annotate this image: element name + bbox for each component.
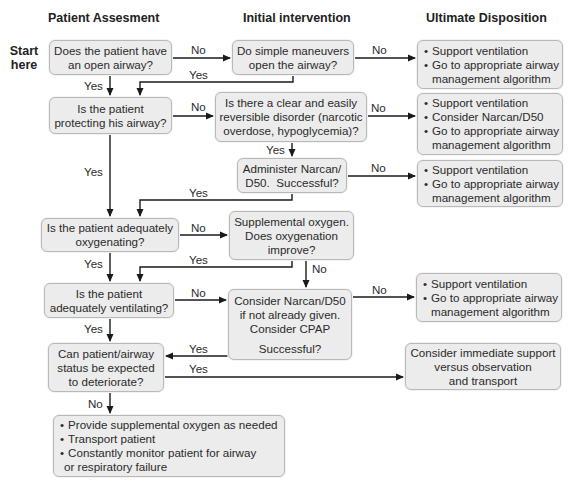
bullet-continuation: management algorithm <box>424 191 562 205</box>
bullet-item: Support ventilation <box>424 163 562 177</box>
bullet-item: Go to appropriate airway <box>423 291 561 305</box>
node-text: adequately ventilating? <box>50 301 169 315</box>
node-text: to deteriorate? <box>69 375 144 389</box>
edge-label-yes: Yes <box>84 257 103 270</box>
node-text: protecting his airway? <box>54 116 166 130</box>
bullet-item: Provide supplemental oxygen as needed <box>60 418 284 432</box>
node-text: Consider immediate support <box>411 346 556 360</box>
bullet-item: Support ventilation <box>424 44 562 58</box>
edge-label-no: No <box>191 221 206 234</box>
node-text: open the airway? <box>249 58 337 72</box>
node-text: versus observation <box>434 360 531 374</box>
edge-label-no: No <box>191 43 206 56</box>
node-supplemental-oxygen: Supplemental oxygen. Does oxygenation im… <box>229 211 354 260</box>
node-disposition-3: Support ventilation Go to appropriate ai… <box>417 160 563 207</box>
node-text: Administer Narcan/ <box>243 162 342 176</box>
bullet-continuation: management algorithm <box>424 138 562 152</box>
node-text: Is the patient <box>76 287 142 301</box>
node-text: Is the patient adequately <box>47 221 173 235</box>
edge-label-no: No <box>372 43 387 56</box>
node-text: Successful? <box>259 342 322 356</box>
node-text: Supplemental oxygen. <box>234 215 349 229</box>
node-protecting-airway: Is the patient protecting his airway? <box>49 97 172 134</box>
node-reversible-disorder: Is there a clear and easily reversible d… <box>215 92 367 142</box>
node-text: Is there a clear and easily <box>225 96 357 110</box>
bullet-item: Consider Narcan/D50 <box>424 110 562 124</box>
node-observation-transport: Consider immediate support versus observ… <box>405 343 561 390</box>
edge-label-no: No <box>371 101 386 114</box>
edge-label-yes: Yes <box>84 165 103 178</box>
edge-label-yes: Yes <box>189 186 208 199</box>
node-text: Does the patient have <box>54 44 167 58</box>
edge-label-no: No <box>371 161 386 174</box>
node-open-airway: Does the patient have an open airway? <box>49 40 172 75</box>
edge-label-no: No <box>191 100 206 113</box>
node-disposition-2: Support ventilation Consider Narcan/D50 … <box>417 93 563 155</box>
node-text: Consider Narcan/D50 <box>234 294 345 308</box>
bullet-item: Go to appropriate airway <box>424 58 562 72</box>
node-simple-maneuvers: Do simple maneuvers open the airway? <box>232 40 354 75</box>
bullet-continuation: or respiratory failure <box>60 460 284 474</box>
node-disposition-1: Support ventilation Go to appropriate ai… <box>417 40 563 89</box>
node-text: oxygenating? <box>76 235 145 249</box>
edge-label-no: No <box>372 283 387 296</box>
node-text: Do simple maneuvers <box>237 44 349 58</box>
edge-label-yes: Yes <box>189 362 208 375</box>
node-ventilating: Is the patient adequately ventilating? <box>44 283 174 318</box>
node-text: Can patient/airway <box>58 347 154 361</box>
node-final-care: Provide supplemental oxygen as needed Tr… <box>53 415 285 477</box>
bullet-item: Go to appropriate airway <box>424 124 562 138</box>
node-deteriorate: Can patient/airway status be expected to… <box>48 343 164 392</box>
edge-label-yes: Yes <box>84 322 103 335</box>
node-text: and transport <box>449 374 517 388</box>
bullet-item: Go to appropriate airway <box>424 177 562 191</box>
bullet-item: Constantly monitor patient for airway <box>60 446 284 460</box>
edge-label-yes: Yes <box>189 68 208 81</box>
edge-label-yes: Yes <box>84 79 103 92</box>
edge-label-no: No <box>191 286 206 299</box>
node-text: Does oxygenation <box>245 229 338 243</box>
edge-label-yes: Yes <box>189 342 208 355</box>
node-text: Is the patient <box>77 102 143 116</box>
edge-label-no: No <box>88 397 103 410</box>
node-text: status be expected <box>57 361 154 375</box>
node-text: D50. Successful? <box>245 176 338 190</box>
bullet-continuation: management algorithm <box>423 305 561 319</box>
bullet-continuation: management algorithm <box>424 72 562 86</box>
node-oxygenating: Is the patient adequately oxygenating? <box>41 218 179 252</box>
bullet-item: Transport patient <box>60 432 284 446</box>
node-text: if not already given. <box>240 308 341 322</box>
node-text: overdose, hypoglycemia)? <box>223 124 358 138</box>
node-text: an open airway? <box>68 58 153 72</box>
node-disposition-4: Support ventilation Go to appropriate ai… <box>416 273 562 322</box>
node-text: Consider CPAP <box>250 322 330 336</box>
node-administer-narcan: Administer Narcan/ D50. Successful? <box>237 158 347 193</box>
edge-label-yes: Yes <box>189 253 208 266</box>
bullet-item: Support ventilation <box>423 277 561 291</box>
bullet-item: Support ventilation <box>424 96 562 110</box>
node-consider-narcan-cpap: Consider Narcan/D50 if not already given… <box>228 289 352 360</box>
edge-label-yes: Yes <box>266 143 285 156</box>
node-text: improve? <box>268 243 316 257</box>
edge-label-no: No <box>312 262 327 275</box>
node-text: reversible disorder (narcotic <box>219 110 362 124</box>
